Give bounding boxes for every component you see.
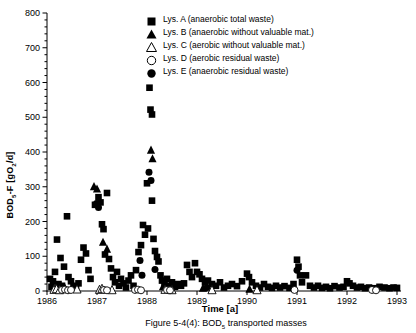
y-axis-label-text2: -F [gO — [5, 167, 15, 195]
svg-text:100: 100 — [25, 251, 40, 261]
x-axis-label: Time [a] — [202, 303, 238, 314]
open-circle-icon — [146, 52, 158, 63]
svg-text:0: 0 — [35, 286, 40, 296]
svg-text:1986: 1986 — [37, 296, 57, 306]
caption-text: Figure 5-4(4): BOD — [145, 318, 222, 328]
figure-caption: Figure 5-4(4): BOD5 transported masses — [145, 318, 306, 330]
filled-circle-icon — [146, 65, 158, 76]
svg-text:1988: 1988 — [137, 296, 157, 306]
legend: Lys. A (anaerobic total waste) Lys. B (a… — [146, 12, 314, 77]
legend-label-lys-e: Lys. E (anaerobic residual waste) — [163, 66, 288, 76]
caption-text2: transported masses — [225, 318, 307, 328]
figure-5-4-4: 0100200300400500600700800198619871988198… — [0, 0, 416, 333]
svg-text:200: 200 — [25, 217, 40, 227]
y-axis-label-text3: /d] — [5, 151, 15, 163]
legend-item-lys-d: Lys. D (aerobic residual waste) — [146, 51, 314, 64]
legend-item-lys-b: Lys. B (anaerobic without valuable mat.) — [146, 25, 314, 38]
svg-text:700: 700 — [25, 43, 40, 53]
y-axis-label: BOD5-F [gO2/d] — [5, 151, 17, 218]
legend-label-lys-d: Lys. D (aerobic residual waste) — [163, 53, 279, 63]
y-axis-label-sub2: 2 — [10, 163, 17, 167]
legend-label-lys-a: Lys. A (anaerobic total waste) — [163, 14, 274, 24]
filled-triangle-icon — [146, 26, 158, 37]
legend-item-lys-c: Lys. C (aerobic without valuable mat.) — [146, 38, 314, 51]
svg-text:1992: 1992 — [337, 296, 357, 306]
open-triangle-icon — [146, 39, 158, 50]
legend-item-lys-a: Lys. A (anaerobic total waste) — [146, 12, 314, 25]
svg-text:1991: 1991 — [287, 296, 307, 306]
svg-text:300: 300 — [25, 182, 40, 192]
svg-text:1987: 1987 — [87, 296, 107, 306]
svg-text:1990: 1990 — [237, 296, 257, 306]
svg-text:500: 500 — [25, 112, 40, 122]
legend-label-lys-b: Lys. B (anaerobic without valuable mat.) — [163, 27, 314, 37]
y-axis-label-sub5: 5 — [10, 194, 17, 198]
svg-text:400: 400 — [25, 147, 40, 157]
filled-square-icon — [146, 13, 158, 24]
svg-text:800: 800 — [25, 8, 40, 18]
y-axis-label-text: BOD — [5, 198, 15, 219]
legend-label-lys-c: Lys. C (aerobic without valuable mat.) — [163, 40, 305, 50]
svg-text:1993: 1993 — [387, 296, 407, 306]
svg-text:600: 600 — [25, 78, 40, 88]
legend-item-lys-e: Lys. E (anaerobic residual waste) — [146, 64, 314, 77]
